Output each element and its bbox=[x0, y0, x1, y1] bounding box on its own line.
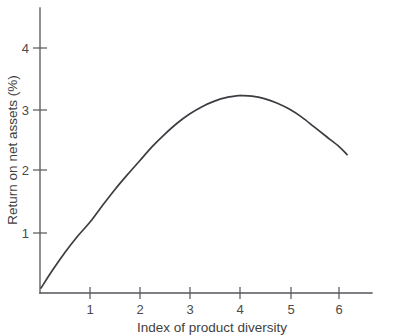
x-tick-label-5: 5 bbox=[287, 302, 294, 317]
x-tick-label-1: 1 bbox=[86, 302, 93, 317]
y-tick-label-2: 2 bbox=[22, 163, 29, 178]
x-axis-title: Index of product diversity bbox=[137, 320, 287, 335]
chart-container: 4 3 2 1 1 2 3 4 5 6 Index of product div… bbox=[0, 0, 404, 336]
x-tick-label-3: 3 bbox=[186, 302, 193, 317]
y-tick-label-1: 1 bbox=[22, 226, 29, 241]
x-tick-label-4: 4 bbox=[236, 302, 243, 317]
x-tick-label-6: 6 bbox=[335, 302, 342, 317]
chart-plot-area: 4 3 2 1 1 2 3 4 5 6 Index of product div… bbox=[0, 0, 404, 336]
y-tick-label-3: 3 bbox=[22, 103, 29, 118]
data-series-line bbox=[41, 95, 347, 288]
x-tick-label-2: 2 bbox=[136, 302, 143, 317]
y-axis-title: Return on net assets (%) bbox=[5, 75, 20, 224]
y-tick-label-4: 4 bbox=[22, 41, 29, 56]
